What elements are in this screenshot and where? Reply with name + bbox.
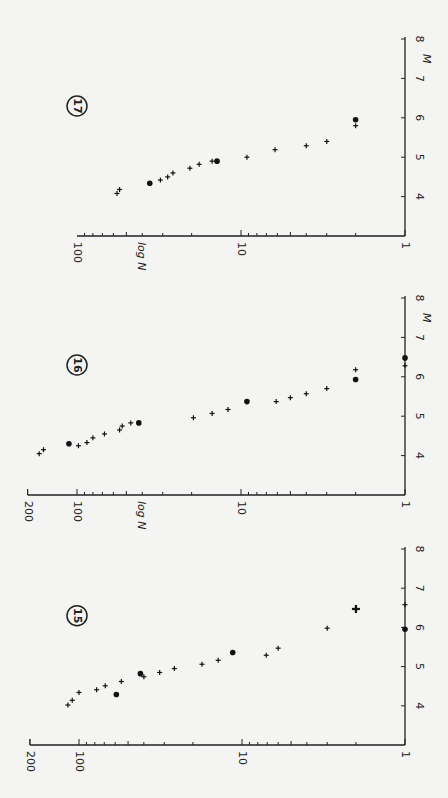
m-tick-label: 7 xyxy=(413,334,426,341)
data-point-plus xyxy=(264,653,269,658)
log-n-tick-label: 100 xyxy=(73,751,86,772)
data-point-dot xyxy=(353,377,359,383)
data-point-plus xyxy=(325,626,330,631)
log-n-tick-label: 100 xyxy=(71,501,84,522)
magnitude-frequency-figure: 11010045678log NM1711010020045678log NM1… xyxy=(0,0,448,798)
data-point-plus xyxy=(158,178,163,183)
m-tick-label: 8 xyxy=(413,546,426,553)
data-point-dot xyxy=(114,692,120,698)
data-point-dot xyxy=(402,355,408,361)
m-tick-label: 5 xyxy=(413,663,426,670)
data-point-dot xyxy=(136,420,142,426)
data-point-plus xyxy=(353,367,358,372)
log-n-axis-label: log N xyxy=(135,242,148,271)
data-point-plus xyxy=(117,427,122,432)
m-tick-label: 8 xyxy=(413,36,426,43)
data-point-dot xyxy=(244,399,250,405)
data-point-plus xyxy=(172,666,177,671)
data-point-plus xyxy=(273,147,278,152)
data-point-plus xyxy=(120,424,125,429)
data-point-plus xyxy=(210,411,215,416)
log-n-tick-label: 100 xyxy=(71,242,84,263)
log-n-tick-label: 10 xyxy=(236,751,249,765)
data-point-plus xyxy=(276,646,281,651)
data-point-plus xyxy=(165,174,170,179)
m-tick-label: 7 xyxy=(413,585,426,592)
data-point-plus xyxy=(304,391,309,396)
data-point-plus xyxy=(94,687,99,692)
data-point-plus xyxy=(191,415,196,420)
m-axis-label: M xyxy=(420,54,433,64)
panel-number-label: 17 xyxy=(71,98,84,113)
panel-17: 11010045678log NM17 xyxy=(67,36,433,271)
log-n-tick-label: 1 xyxy=(399,751,412,758)
m-tick-label: 4 xyxy=(413,193,426,200)
m-tick-label: 5 xyxy=(413,154,426,161)
data-point-plus xyxy=(102,431,107,436)
m-tick-label: 7 xyxy=(413,75,426,82)
panels: 11010045678log NM1711010020045678log NM1… xyxy=(22,36,433,773)
data-point-plus xyxy=(90,435,95,440)
data-point-plus xyxy=(324,386,329,391)
data-point-plus xyxy=(187,166,192,171)
m-tick-label: 6 xyxy=(413,114,426,121)
data-point-plus xyxy=(324,139,329,144)
m-axis-label: M xyxy=(420,313,433,323)
panel-number-label: 16 xyxy=(71,357,84,373)
data-point-dot xyxy=(147,180,153,186)
log-n-tick-label: 200 xyxy=(22,501,35,522)
data-point-plus xyxy=(41,447,46,452)
m-tick-label: 8 xyxy=(413,295,426,302)
data-point-plus xyxy=(103,683,108,688)
m-tick-label: 4 xyxy=(413,702,426,709)
data-point-star xyxy=(352,605,360,613)
data-point-plus xyxy=(403,602,408,607)
data-point-plus xyxy=(197,162,202,167)
log-n-tick-label: 1 xyxy=(399,242,412,249)
data-point-plus xyxy=(244,155,249,160)
m-tick-label: 6 xyxy=(413,624,426,631)
data-point-plus xyxy=(119,679,124,684)
data-point-dot xyxy=(353,117,359,123)
data-point-dot xyxy=(138,671,144,677)
m-tick-label: 4 xyxy=(413,452,426,459)
data-point-dot xyxy=(402,627,408,633)
data-point-plus xyxy=(210,159,215,164)
data-point-plus xyxy=(288,395,293,400)
m-tick-label: 6 xyxy=(413,373,426,380)
data-point-plus xyxy=(403,363,408,368)
data-point-plus xyxy=(65,703,70,708)
panel-16: 11010020045678log NM16 xyxy=(22,295,433,530)
data-point-dot xyxy=(214,158,220,164)
data-point-plus xyxy=(274,399,279,404)
data-point-plus xyxy=(115,191,120,196)
log-n-axis-label: log N xyxy=(135,501,148,530)
data-point-plus xyxy=(77,690,82,695)
data-point-plus xyxy=(117,187,122,192)
data-point-plus xyxy=(353,123,358,128)
log-n-tick-label: 10 xyxy=(235,501,248,515)
data-point-plus xyxy=(199,662,204,667)
log-n-tick-label: 1 xyxy=(399,501,412,508)
data-point-plus xyxy=(37,451,42,456)
data-point-plus xyxy=(170,170,175,175)
data-point-plus xyxy=(84,440,89,445)
data-point-dot xyxy=(230,650,236,656)
panel-number-label: 15 xyxy=(71,608,84,623)
data-point-plus xyxy=(76,443,81,448)
data-point-plus xyxy=(304,143,309,148)
data-point-dot xyxy=(66,441,72,447)
log-n-tick-label: 10 xyxy=(235,242,248,256)
panel-15: 1101002004567815 xyxy=(24,546,426,773)
data-point-plus xyxy=(157,670,162,675)
m-tick-label: 5 xyxy=(413,413,426,420)
data-point-plus xyxy=(70,698,75,703)
data-point-plus xyxy=(216,658,221,663)
data-point-plus xyxy=(128,420,133,425)
log-n-tick-label: 200 xyxy=(24,751,37,772)
data-point-plus xyxy=(226,407,231,412)
